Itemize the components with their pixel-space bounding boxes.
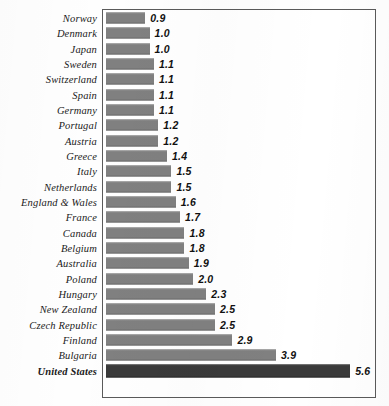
- bar: [106, 364, 350, 377]
- bar-row: Spain1.1: [0, 87, 389, 102]
- bar: [106, 289, 206, 300]
- category-label: Spain: [72, 89, 97, 100]
- category-label: New Zealand: [40, 304, 97, 315]
- category-label: Bulgaria: [58, 350, 97, 361]
- bar: [106, 319, 215, 330]
- bar-value-label: 1.2: [163, 119, 178, 131]
- bar-chart-figure: Norway0.9Denmark1.0Japan1.0Sweden1.1Swit…: [0, 0, 389, 406]
- bar-row: Italy1.5: [0, 164, 389, 179]
- category-label: Portugal: [58, 120, 97, 131]
- bar: [106, 74, 154, 85]
- bar-row: Hungary2.3: [0, 286, 389, 301]
- bar-row: Canada1.8: [0, 225, 389, 240]
- bar-row: Czech Republic2.5: [0, 317, 389, 332]
- bar-row: Bulgaria3.9: [0, 348, 389, 363]
- bar: [106, 151, 167, 162]
- bar: [106, 166, 171, 177]
- bar-value-label: 1.6: [181, 196, 196, 208]
- bar-value-label: 1.0: [155, 43, 170, 55]
- bar: [106, 59, 154, 70]
- bar: [106, 120, 158, 131]
- bar-value-label: 2.5: [220, 319, 235, 331]
- bar-row: Japan1.0: [0, 41, 389, 56]
- bar-value-label: 1.5: [176, 181, 191, 193]
- category-label: United States: [38, 365, 97, 376]
- category-label: Austria: [65, 135, 97, 146]
- category-label: Netherlands: [44, 181, 97, 192]
- bar: [106, 243, 184, 254]
- category-label: England & Wales: [21, 197, 97, 208]
- category-label: Canada: [63, 227, 97, 238]
- bar-row: Austria1.2: [0, 133, 389, 148]
- bar-row: Belgium1.8: [0, 240, 389, 255]
- bar-row: France1.7: [0, 210, 389, 225]
- bar-value-label: 1.1: [159, 89, 174, 101]
- category-label: Poland: [66, 273, 97, 284]
- bar-row: United States5.6: [0, 363, 389, 378]
- bar: [106, 135, 158, 146]
- bar-value-label: 1.5: [176, 165, 191, 177]
- bar-value-label: 1.8: [189, 227, 204, 239]
- bar-row: Switzerland1.1: [0, 72, 389, 87]
- bar: [106, 13, 145, 24]
- category-label: Denmark: [57, 28, 97, 39]
- bar: [106, 258, 189, 269]
- category-label: Czech Republic: [29, 319, 97, 330]
- bar: [106, 335, 232, 346]
- bar-value-label: 1.1: [159, 58, 174, 70]
- bar-row: Portugal1.2: [0, 118, 389, 133]
- bar: [106, 28, 150, 39]
- bar: [106, 89, 154, 100]
- bar-row: Greece1.4: [0, 148, 389, 163]
- bar: [106, 181, 171, 192]
- category-label: Greece: [66, 151, 97, 162]
- bar-value-label: 2.3: [211, 288, 226, 300]
- category-label: Sweden: [64, 59, 97, 70]
- bar-row: Norway0.9: [0, 11, 389, 26]
- category-label: Germany: [57, 105, 97, 116]
- bar: [106, 43, 150, 54]
- bar: [106, 350, 276, 361]
- category-label: Australia: [57, 258, 97, 269]
- bar-row: England & Wales1.6: [0, 194, 389, 209]
- bar-row: New Zealand2.5: [0, 302, 389, 317]
- bar-value-label: 0.9: [150, 12, 165, 24]
- bar-value-label: 5.6: [355, 365, 370, 377]
- bar-row: Netherlands1.5: [0, 179, 389, 194]
- bar-value-label: 3.9: [281, 349, 296, 361]
- bar-row: Poland2.0: [0, 271, 389, 286]
- bar-row: Sweden1.1: [0, 56, 389, 71]
- bar: [106, 212, 180, 223]
- bar-value-label: 1.8: [189, 242, 204, 254]
- bar: [106, 105, 154, 116]
- bar-value-label: 2.0: [198, 273, 213, 285]
- bar-value-label: 1.9: [194, 257, 209, 269]
- category-label: Switzerland: [46, 74, 97, 85]
- category-label: Finland: [63, 335, 97, 346]
- bar-value-label: 1.7: [185, 211, 200, 223]
- category-label: Belgium: [61, 243, 97, 254]
- bar-value-label: 2.9: [237, 334, 252, 346]
- category-label: Japan: [71, 43, 97, 54]
- bar-value-label: 2.5: [220, 303, 235, 315]
- bar-row: Denmark1.0: [0, 26, 389, 41]
- bar-row: Finland2.9: [0, 332, 389, 347]
- category-label: Italy: [77, 166, 97, 177]
- bar: [106, 227, 184, 238]
- bar-value-label: 1.2: [163, 135, 178, 147]
- bar-rows-container: Norway0.9Denmark1.0Japan1.0Sweden1.1Swit…: [0, 0, 389, 406]
- bar-value-label: 1.4: [172, 150, 187, 162]
- bar: [106, 273, 193, 284]
- bar-value-label: 1.1: [159, 73, 174, 85]
- category-label: France: [66, 212, 97, 223]
- bar-row: Germany1.1: [0, 102, 389, 117]
- category-label: Hungary: [59, 289, 97, 300]
- bar-value-label: 1.0: [155, 27, 170, 39]
- bar-value-label: 1.1: [159, 104, 174, 116]
- category-label: Norway: [63, 13, 97, 24]
- bar: [106, 304, 215, 315]
- bar-row: Australia1.9: [0, 256, 389, 271]
- bar: [106, 197, 176, 208]
